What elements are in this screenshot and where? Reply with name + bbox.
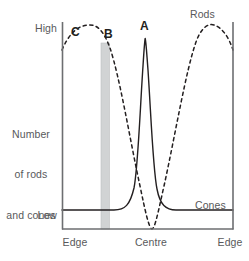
series-label-cones: Cones	[195, 199, 226, 211]
rods-and-cones-chart: High Low Number of rods and cones Edge C…	[0, 0, 249, 261]
x-axis-tick-edge-left: Edge	[54, 236, 96, 248]
y-axis-title-line-3: and cones	[4, 209, 58, 222]
annotation-label-b: B	[104, 27, 113, 41]
y-axis-title-line-1: Number	[4, 128, 58, 141]
y-axis-title-line-2: of rods	[4, 168, 58, 181]
cones-curve	[62, 39, 233, 211]
y-axis-title: Number of rods and cones	[4, 101, 58, 249]
series-label-rods: Rods	[190, 8, 215, 20]
x-axis-tick-centre: Centre	[126, 236, 176, 248]
annotation-label-c: C	[71, 25, 80, 39]
x-axis-tick-edge-right: Edge	[209, 236, 249, 248]
shaded-band-b	[101, 43, 110, 229]
annotation-label-a: A	[140, 19, 149, 33]
y-axis-tick-high: High	[35, 22, 57, 34]
